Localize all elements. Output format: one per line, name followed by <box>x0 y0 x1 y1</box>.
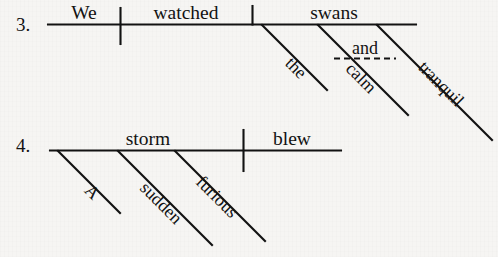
sentence-diagram-canvas: 3. We watched swans the calm tranquil an… <box>0 0 498 257</box>
modifier-line-a <box>58 151 120 213</box>
conjunction-word-and: and <box>352 38 378 58</box>
verb-word-3: watched <box>154 2 219 23</box>
modifier-word-a: A <box>81 180 104 203</box>
item-number-4: 4. <box>16 135 30 156</box>
object-word-3: swans <box>310 2 358 23</box>
subject-word-3: We <box>71 2 97 23</box>
verb-word-4: blew <box>273 128 311 149</box>
modifier-word-the: the <box>281 53 311 83</box>
exercise-3-group: 3. We watched swans the calm tranquil an… <box>16 2 492 140</box>
diagram-stage: 3. We watched swans the calm tranquil an… <box>0 0 498 257</box>
item-number-3: 3. <box>16 14 30 35</box>
subject-word-4: storm <box>126 128 170 149</box>
exercise-4-group: 4. storm blew A sudden furious <box>16 128 341 245</box>
modifier-word-sudden: sudden <box>136 178 186 228</box>
modifier-word-furious: furious <box>192 172 242 222</box>
modifier-word-tranquil: tranquil <box>414 57 468 111</box>
modifier-word-calm: calm <box>342 58 381 97</box>
